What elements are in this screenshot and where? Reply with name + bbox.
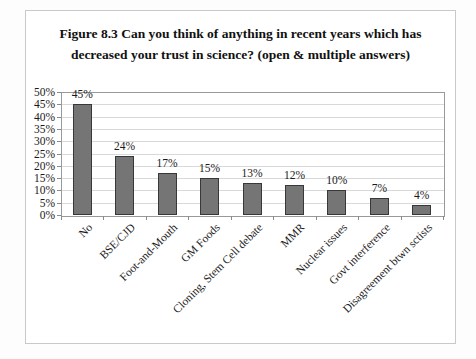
- y-axis-label: 20%: [26, 160, 55, 173]
- x-tick: [401, 216, 402, 220]
- y-axis-label: 45%: [26, 98, 55, 111]
- y-tick: [57, 104, 61, 105]
- y-axis-label: 40%: [26, 111, 55, 124]
- chart-title-line-2: decreased your trust in science? (open &…: [26, 44, 455, 65]
- figure-box: Figure 8.3 Can you think of anything in …: [25, 10, 456, 344]
- page: { "figure": { "title_line1": "Figure 8.3…: [0, 0, 476, 359]
- y-axis-label: 25%: [26, 148, 55, 161]
- gridline: [62, 154, 444, 155]
- y-tick: [57, 203, 61, 204]
- bar-value-label: 24%: [95, 139, 155, 153]
- x-tick: [358, 216, 359, 220]
- x-tick: [146, 216, 147, 220]
- bar: [158, 173, 177, 215]
- x-axis-label: BSE/CJD: [97, 221, 137, 261]
- bar: [73, 104, 92, 215]
- x-tick: [443, 216, 444, 220]
- y-axis-label: 35%: [26, 123, 55, 136]
- chart-title: Figure 8.3 Can you think of anything in …: [26, 23, 455, 65]
- y-tick: [57, 166, 61, 167]
- gridline: [62, 129, 444, 130]
- x-axis-label: No: [76, 221, 94, 239]
- x-axis-label: MMR: [279, 221, 307, 249]
- bar-value-label: 4%: [392, 188, 452, 202]
- x-tick: [188, 216, 189, 220]
- bar: [200, 178, 219, 215]
- bar: [285, 185, 304, 215]
- bar: [115, 156, 134, 215]
- y-axis-label: 0%: [26, 209, 55, 222]
- x-tick: [273, 216, 274, 220]
- bar: [327, 190, 346, 215]
- x-axis-label: Disagreement btwn sctists: [340, 221, 434, 315]
- y-tick: [57, 129, 61, 130]
- bar-value-label: 45%: [52, 87, 112, 101]
- y-tick: [57, 117, 61, 118]
- x-tick: [61, 216, 62, 220]
- y-tick: [57, 190, 61, 191]
- bar: [243, 183, 262, 215]
- gridline: [62, 117, 444, 118]
- y-axis-label: 50%: [26, 86, 55, 99]
- y-axis-label: 10%: [26, 184, 55, 197]
- y-tick: [57, 154, 61, 155]
- chart-title-line-1: Figure 8.3 Can you think of anything in …: [26, 23, 455, 44]
- x-tick: [103, 216, 104, 220]
- x-tick: [316, 216, 317, 220]
- x-tick: [231, 216, 232, 220]
- y-axis-label: 30%: [26, 135, 55, 148]
- y-axis-label: 5%: [26, 197, 55, 210]
- y-axis-label: 15%: [26, 172, 55, 185]
- bar: [370, 198, 389, 215]
- y-tick: [57, 178, 61, 179]
- y-tick: [57, 141, 61, 142]
- x-axis-label: GM Foods: [179, 221, 223, 265]
- x-axis-label: Cloning, Stem Cell debate: [170, 221, 264, 315]
- bar: [412, 205, 431, 215]
- chart-layer: Figure 8.3 Can you think of anything in …: [26, 11, 455, 343]
- gridline: [62, 104, 444, 105]
